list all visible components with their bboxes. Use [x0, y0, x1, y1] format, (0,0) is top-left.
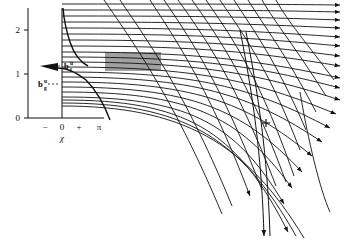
y-tick-label-2: 2: [16, 25, 21, 35]
svg-text:b: b: [38, 79, 43, 89]
y-tick-label-0: 0: [16, 113, 21, 123]
x-tick-label-zero: 0: [60, 122, 65, 132]
scattering-diagram-svg: 0 1 2 − 0 + π χ b u f: [0, 0, 356, 241]
x-tick-label-plus: +: [76, 122, 81, 132]
y-tick-label-1: 1: [16, 69, 21, 79]
x-tick-label-minus: −: [42, 122, 47, 132]
svg-text:u: u: [44, 78, 47, 84]
svg-text:f: f: [70, 67, 72, 73]
svg-text:g: g: [44, 85, 47, 91]
svg-text:b: b: [64, 61, 69, 71]
figure-root: 0 1 2 − 0 + π χ b u f: [0, 0, 356, 241]
svg-text:u: u: [70, 60, 73, 66]
x-tick-label-pi: π: [97, 122, 102, 132]
